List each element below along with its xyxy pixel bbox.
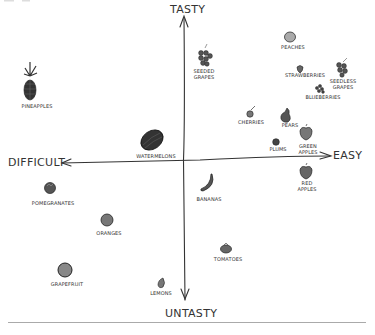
- label-line: APPLES: [298, 149, 317, 155]
- point-label-grapefruit: GRAPEFRUIT: [51, 282, 83, 288]
- y-axis-positive-label: TASTY: [170, 3, 205, 16]
- corner-mark: [4, 0, 14, 2]
- point-label-pomegranates: POMEGRANATES: [32, 201, 74, 207]
- red-apple-icon: [300, 163, 312, 179]
- point-label-peaches: PEACHES: [281, 45, 305, 51]
- banana-icon: [201, 174, 213, 191]
- x-axis-negative-label: DIFFICULT: [8, 156, 65, 169]
- corner-mark: [22, 0, 30, 2]
- green-apple-icon: [300, 124, 312, 140]
- y-axis-line: [184, 18, 186, 300]
- point-label-seedless-grapes: SEEDLESSGRAPES: [330, 79, 356, 90]
- label-line: GRAPES: [194, 74, 215, 80]
- axes: [62, 16, 331, 300]
- cherry-icon: [247, 106, 255, 117]
- bottom-divider: [8, 322, 366, 323]
- point-label-oranges: ORANGES: [96, 231, 121, 237]
- pomegranate-icon: [45, 183, 56, 194]
- point-label-tomatoes: TOMATOES: [214, 257, 242, 263]
- y-axis-negative-label: UNTASTY: [165, 307, 217, 320]
- seedless-grapes-icon: [337, 58, 348, 77]
- x-axis-positive-label: EASY: [333, 149, 362, 162]
- point-label-plums: PLUMS: [269, 147, 286, 153]
- grapefruit-icon: [58, 263, 72, 277]
- point-label-pineapples: PINEAPPLES: [22, 104, 53, 110]
- blueberries-icon: [315, 84, 324, 93]
- point-label-cherries: CHERRIES: [238, 120, 264, 126]
- point-label-lemons: LEMONS: [150, 291, 172, 297]
- orange-icon: [101, 214, 113, 226]
- point-label-watermelons: WATERMELONS: [136, 154, 175, 160]
- point-label-seeded-grapes: SEEDEDGRAPES: [194, 69, 215, 80]
- point-label-pears: PEARS: [282, 123, 299, 129]
- lemon-icon: [158, 278, 165, 288]
- label-line: GRAPES: [333, 84, 354, 90]
- x-axis-line: [62, 156, 330, 163]
- label-line: APPLES: [297, 186, 316, 192]
- peach-icon: [285, 32, 296, 42]
- point-label-red-apples: REDAPPLES: [297, 181, 316, 192]
- point-label-blueberries: BLUEBERRIES: [305, 95, 340, 101]
- watermelon-icon: [137, 126, 167, 155]
- point-label-strawberries: STRAWBERRIES: [285, 73, 325, 79]
- point-label-green-apples: GREENAPPLES: [298, 144, 317, 155]
- seeded-grapes-icon: [199, 44, 213, 66]
- tomato-icon: [221, 243, 232, 253]
- point-label-bananas: BANANAS: [196, 197, 221, 203]
- pear-icon: [281, 108, 290, 122]
- plum-icon: [273, 139, 280, 146]
- pineapple-icon: [24, 62, 37, 100]
